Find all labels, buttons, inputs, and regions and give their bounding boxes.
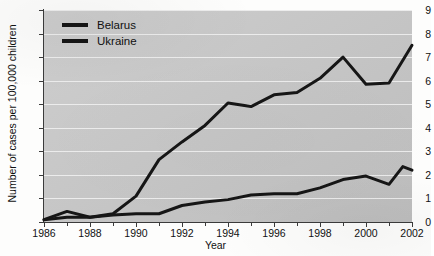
y-tick [39, 175, 44, 176]
legend-swatch-belarus [62, 23, 88, 27]
gridline [44, 81, 412, 82]
chart-legend: Belarus Ukraine [62, 17, 137, 49]
x-minor-tick [205, 223, 206, 226]
legend-label-belarus: Belarus [97, 19, 136, 31]
y-axis-title: Number of cases per 100,000 children [7, 24, 18, 204]
x-minor-tick [251, 223, 252, 226]
y-tick [39, 10, 44, 11]
x-tick-label: 1988 [68, 228, 112, 239]
y-tick [39, 128, 44, 129]
y-tick [39, 81, 44, 82]
x-minor-tick [113, 223, 114, 226]
x-minor-tick [343, 223, 344, 226]
x-tick-label: 2000 [344, 228, 388, 239]
gridline [44, 10, 412, 11]
y-tick [39, 34, 44, 35]
y-tick-label: 4 [397, 123, 431, 134]
gridline [44, 104, 412, 105]
y-axis-line [43, 9, 44, 223]
y-tick [39, 198, 44, 199]
x-tick-label: 1998 [298, 228, 342, 239]
y-tick [39, 151, 44, 152]
x-tick-label: 1996 [252, 228, 296, 239]
gridline [44, 128, 412, 129]
y-tick-label: 7 [397, 52, 431, 63]
x-minor-tick [297, 223, 298, 226]
x-axis-title: Year [0, 240, 431, 251]
y-tick [39, 104, 44, 105]
y-tick-label: 6 [397, 76, 431, 87]
y-tick-label: 2 [397, 170, 431, 181]
legend-swatch-ukraine [62, 39, 88, 43]
y-tick-label: 9 [397, 5, 431, 16]
x-minor-tick [159, 223, 160, 226]
y-tick [39, 57, 44, 58]
y-tick-label: 0 [397, 217, 431, 228]
x-tick-label: 1986 [22, 228, 66, 239]
gridline [44, 151, 412, 152]
gridline [44, 198, 412, 199]
y-tick-label: 3 [397, 146, 431, 157]
gridline [44, 175, 412, 176]
y-tick-label: 1 [397, 193, 431, 204]
x-tick-label: 1990 [114, 228, 158, 239]
x-minor-tick [67, 223, 68, 226]
gridline [44, 57, 412, 58]
legend-item-ukraine: Ukraine [62, 33, 137, 49]
x-minor-tick [389, 223, 390, 226]
legend-label-ukraine: Ukraine [97, 35, 137, 47]
legend-item-belarus: Belarus [62, 17, 137, 33]
y-tick-label: 8 [397, 29, 431, 40]
x-tick-label: 2002 [390, 228, 434, 239]
x-tick-label: 1994 [206, 228, 250, 239]
y-tick-label: 5 [397, 99, 431, 110]
x-tick-label: 1992 [160, 228, 204, 239]
